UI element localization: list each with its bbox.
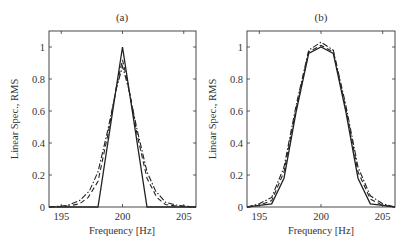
panel-a-axes-frame [49,31,196,207]
y-tick-label: 0 [238,202,243,213]
panel-b-series [247,42,395,207]
panel-a-xlabel: Frequency [Hz] [89,225,155,236]
x-tick-label: 205 [176,211,192,222]
x-tick-label: 200 [313,211,329,222]
x-tick-label: 195 [53,211,69,222]
x-tick-label: 195 [251,211,267,222]
y-tick-label: 0.6 [230,106,243,117]
x-tick-label: 200 [115,211,131,222]
panel-b-xlabel: Frequency [Hz] [288,225,354,236]
y-tick-label: 0.2 [230,170,243,181]
panel-b: (b) 19520020500.20.40.60.81 Frequency [H… [207,11,395,236]
x-tick-label: 205 [375,211,391,222]
panel-b-title: (b) [315,11,328,24]
y-tick-label: 0.8 [32,74,45,85]
panel-b-ticks: 19520020500.20.40.60.81 [230,31,395,222]
y-tick-label: 0 [40,202,45,213]
y-tick-label: 0.8 [230,74,243,85]
panel-b-axes-frame [247,31,395,207]
y-tick-label: 1 [40,42,45,53]
figure: (a) 19520020500.20.40.60.81 Frequency [H… [0,0,410,251]
panel-a-series [49,47,196,207]
y-tick-label: 0.6 [32,106,45,117]
series-dash-dot [49,66,196,207]
series-dashed [49,60,196,207]
y-tick-label: 0.4 [32,138,46,149]
y-tick-label: 0.4 [230,138,244,149]
y-tick-label: 0.2 [32,170,45,181]
panel-a-title: (a) [116,11,129,24]
panel-a-ticks: 19520020500.20.40.60.81 [32,31,196,222]
panel-b-ylabel: Linear Spec., RMS [207,79,218,160]
series-dash-dot [247,42,395,207]
series-dashed [247,45,395,207]
panel-a-ylabel: Linear Spec., RMS [9,79,20,160]
series-solid [49,47,196,207]
panel-a: (a) 19520020500.20.40.60.81 Frequency [H… [9,11,196,236]
series-solid [247,47,395,207]
y-tick-label: 1 [238,42,243,53]
